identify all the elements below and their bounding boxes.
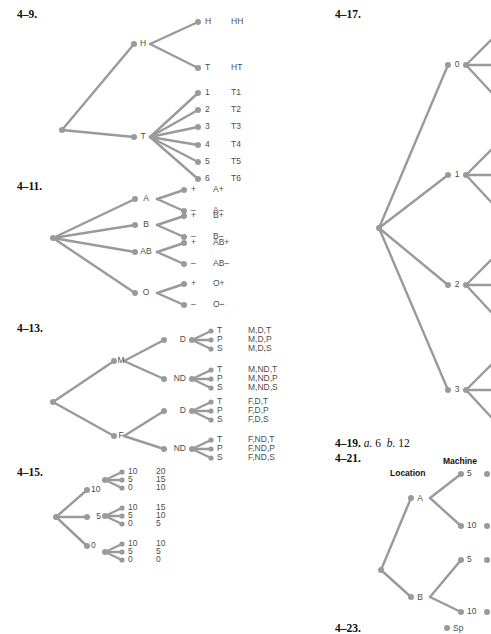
tree-node [195, 159, 201, 165]
tree-outcome: 0 [156, 554, 161, 564]
tree-node [208, 337, 213, 342]
tree-outcome: HH [231, 16, 243, 26]
tree-label-leaf: 4 [205, 139, 210, 149]
tree-label-leaf: Sp [453, 623, 464, 633]
tree-node [181, 234, 187, 240]
tree-label-branch: 10 [91, 484, 101, 494]
tree-node [111, 358, 117, 364]
tree-label-leaf: 0 [128, 554, 133, 564]
tree-label-branch: H [140, 38, 146, 48]
tree-outcome: F,ND,S [248, 452, 275, 462]
tree-label-leaf: T [205, 62, 210, 72]
tree-node-root [50, 235, 56, 241]
tree-node [408, 594, 414, 600]
tree-node [84, 543, 90, 549]
tree-node [463, 387, 469, 393]
tree-diagram-4-17: 0 1 2 3 [330, 0, 491, 430]
tree-node [208, 408, 213, 413]
tree-outcome: M,D,S [248, 343, 272, 353]
tree-node-root [59, 127, 65, 133]
tree-outcome: B+ [213, 210, 224, 220]
tree-node [102, 549, 108, 555]
tree-outcome: T1 [231, 87, 241, 97]
tree-node [445, 172, 451, 178]
tree-outcome: T2 [231, 104, 241, 114]
tree-outcome: T5 [231, 156, 241, 166]
tree-label-branch: ND [174, 373, 186, 383]
tree-node [84, 487, 90, 493]
tree-label-leaf: S [217, 343, 223, 353]
tree-label-leaf: S [217, 382, 223, 392]
tree-node [195, 90, 201, 96]
tree-diagram-4-23: Sp [330, 620, 491, 632]
part-value-b: 12 [398, 437, 410, 449]
tree-node [131, 41, 137, 47]
tree-node [195, 65, 201, 71]
tree-label-leaf: 5 [205, 156, 210, 166]
tree-node-root [376, 225, 382, 231]
tree-node [102, 513, 108, 519]
tree-label-leaf: 10 [467, 606, 477, 616]
tree-node [119, 549, 124, 554]
tree-outcome: AB– [213, 258, 229, 268]
tree-diagram-4-9: H T H T 1 2 3 4 5 6 HH HT T1 T2 T3 T4 T5… [0, 0, 330, 185]
tree-outcome: O– [213, 299, 225, 309]
tree-label-leaf: 5 [467, 554, 472, 564]
tree-node [161, 376, 167, 382]
answer-line-4-19: 4–19. a. 6 b. 12 [335, 437, 410, 449]
tree-diagram-4-15: 10 5 0 10 5 0 10 5 0 10 5 0 20 15 10 15 … [0, 468, 330, 608]
tree-outcome: M,ND,S [248, 382, 278, 392]
tree-outcome: T6 [231, 173, 241, 183]
tree-label-branch: M [117, 355, 124, 365]
tree-node [132, 222, 138, 228]
tree-outcome: F,D,S [248, 414, 269, 424]
tree-node [119, 477, 124, 482]
tree-label-leaf: 1 [205, 87, 210, 97]
tree-node [119, 469, 124, 474]
tree-diagram-4-21: Location Machine A B 5 10 5 10 [330, 462, 491, 612]
tree-node [181, 213, 187, 219]
tree-node [458, 609, 464, 615]
tree-node [119, 485, 124, 490]
tree-label-leaf: – [191, 258, 196, 268]
tree-node [119, 521, 124, 526]
tree-node [195, 107, 201, 113]
tree-node [208, 328, 213, 333]
left-column: 4–9. H T [0, 0, 330, 632]
tree-label-leaf: 5 [467, 468, 472, 478]
tree-label-branch: AB [140, 246, 152, 256]
tree-node [208, 346, 213, 351]
tree-node [119, 513, 124, 518]
tree-node [181, 302, 187, 308]
column-header-machine: Machine [443, 456, 477, 466]
tree-label-branch: A [417, 493, 423, 503]
tree-node [111, 433, 117, 439]
tree-node [132, 196, 138, 202]
tree-node [161, 337, 167, 343]
tree-node [195, 142, 201, 148]
tree-label-branch: O [143, 287, 150, 297]
tree-outcome: T3 [231, 121, 241, 131]
tree-node [484, 523, 490, 529]
tree-label-leaf: 0 [128, 482, 133, 492]
column-header-location: Location [390, 468, 425, 478]
tree-label-leaf: + [191, 278, 196, 288]
tree-label-branch: T [140, 131, 145, 141]
tree-label-leaf: 2 [205, 104, 210, 114]
tree-node [119, 557, 124, 562]
tree-label-branch: 1 [455, 169, 460, 179]
tree-outcome: O+ [213, 278, 225, 288]
tree-outcome: 10 [156, 482, 166, 492]
tree-label-branch: 3 [455, 384, 460, 394]
tree-node-root [53, 514, 59, 520]
tree-node [195, 176, 201, 182]
tree-node [458, 471, 464, 477]
tree-node [208, 399, 213, 404]
tree-node [208, 455, 213, 460]
tree-label-leaf: S [217, 452, 223, 462]
tree-node [463, 62, 469, 68]
tree-label-leaf: 6 [205, 173, 210, 183]
tree-label-leaf: + [191, 237, 196, 247]
tree-label-branch: B [417, 592, 423, 602]
